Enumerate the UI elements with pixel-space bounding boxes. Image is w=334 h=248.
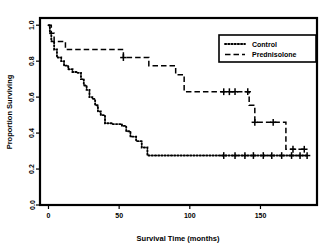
censor-mark xyxy=(245,88,251,95)
censor-mark xyxy=(270,119,276,126)
censor-mark xyxy=(232,152,238,159)
censor-mark xyxy=(120,54,126,61)
survival-chart: 050100150 0.00.20.40.60.81.0 ControlPred… xyxy=(0,0,334,248)
censor-mark xyxy=(260,152,266,159)
censor-mark xyxy=(269,152,275,159)
y-tick-label: 0.0 xyxy=(29,200,36,210)
legend-label-control: Control xyxy=(252,41,277,48)
censor-mark xyxy=(301,146,307,153)
censor-mark xyxy=(250,152,256,159)
x-axis-label: Survival Time (months) xyxy=(137,234,220,243)
legend-label-prednisolone: Prednisolone xyxy=(252,51,296,58)
x-axis-ticks: 050100150 xyxy=(47,205,267,219)
censor-mark xyxy=(278,152,284,159)
chart-page: 050100150 0.00.20.40.60.81.0 ControlPred… xyxy=(0,0,334,248)
x-tick-label: 0 xyxy=(47,212,51,219)
y-tick-label: 0.8 xyxy=(29,56,36,66)
y-tick-label: 0.6 xyxy=(29,92,36,102)
y-axis-label: Proportion Surviving xyxy=(5,74,14,149)
censor-mark xyxy=(226,88,232,95)
x-tick-label: 150 xyxy=(255,212,267,219)
censor-mark xyxy=(288,152,294,159)
x-tick-label: 100 xyxy=(184,212,196,219)
censor-mark xyxy=(242,152,248,159)
censor-mark xyxy=(221,88,227,95)
x-tick-label: 50 xyxy=(115,212,123,219)
censor-mark xyxy=(297,152,303,159)
y-tick-label: 1.0 xyxy=(29,20,36,30)
y-tick-label: 0.2 xyxy=(29,164,36,174)
censor-mark xyxy=(290,146,296,153)
censor-mark xyxy=(252,119,258,126)
censor-mark xyxy=(221,152,227,159)
chart-legend: ControlPrednisolone xyxy=(219,35,316,62)
y-tick-label: 0.4 xyxy=(29,128,36,138)
censor-mark xyxy=(304,152,310,159)
y-axis-ticks: 0.00.20.40.60.81.0 xyxy=(29,20,41,210)
censor-mark xyxy=(232,88,238,95)
